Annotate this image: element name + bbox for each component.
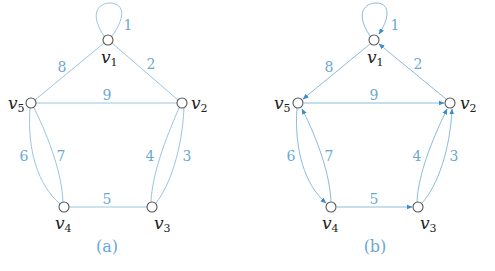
edge-b-3 bbox=[422, 109, 452, 203]
edge-label-b-3: 3 bbox=[450, 148, 459, 164]
edge-label-b-6: 6 bbox=[287, 148, 296, 164]
edge-label-b-5: 5 bbox=[370, 191, 379, 207]
edge-label-a-4: 4 bbox=[146, 148, 155, 164]
vertex-a-v3 bbox=[147, 202, 157, 212]
edge-label-b-1: 1 bbox=[391, 17, 400, 33]
edge-label-a-9: 9 bbox=[103, 87, 112, 103]
edge-a-1-loop bbox=[96, 3, 122, 36]
vertex-label-b-v3: v3 bbox=[420, 213, 437, 235]
graph-a: 1 2 3 4 5 6 7 8 9 v1 v2 v3 v4 v5 (a) bbox=[8, 3, 208, 256]
vertex-label-a-v5: v5 bbox=[8, 93, 25, 115]
vertex-label-b-v2: v2 bbox=[460, 93, 477, 115]
caption-b: (b) bbox=[364, 237, 387, 256]
edge-label-a-7: 7 bbox=[57, 148, 66, 164]
edge-label-a-8: 8 bbox=[58, 59, 67, 75]
edge-a-6 bbox=[30, 108, 60, 204]
edge-label-b-8: 8 bbox=[325, 59, 334, 75]
vertex-label-b-v1: v1 bbox=[367, 47, 384, 69]
edge-label-a-2: 2 bbox=[147, 56, 156, 72]
edge-label-b-9: 9 bbox=[370, 87, 379, 103]
vertex-b-v4 bbox=[326, 202, 336, 212]
vertex-a-v1 bbox=[103, 35, 113, 45]
vertex-label-b-v5: v5 bbox=[274, 93, 291, 115]
vertex-label-b-v4: v4 bbox=[322, 213, 339, 235]
edge-a-2 bbox=[112, 43, 178, 100]
edge-label-a-5: 5 bbox=[103, 191, 112, 207]
vertex-b-v3 bbox=[413, 202, 423, 212]
vertex-b-v5 bbox=[293, 98, 303, 108]
vertex-a-v2 bbox=[177, 98, 187, 108]
edge-b-2 bbox=[379, 44, 446, 99]
vertex-label-a-v2: v2 bbox=[191, 93, 208, 115]
edge-b-1-loop bbox=[362, 3, 387, 36]
edge-a-8 bbox=[35, 43, 104, 100]
vertex-a-v5 bbox=[26, 98, 36, 108]
diagram-canvas: 1 2 3 4 5 6 7 8 9 v1 v2 v3 v4 v5 (a) bbox=[0, 0, 495, 271]
caption-a: (a) bbox=[96, 237, 118, 256]
vertex-label-a-v4: v4 bbox=[55, 213, 72, 235]
vertex-a-v4 bbox=[59, 202, 69, 212]
vertex-label-a-v3: v3 bbox=[154, 213, 171, 235]
vertex-label-a-v1: v1 bbox=[101, 47, 118, 69]
edge-label-b-7: 7 bbox=[325, 148, 334, 164]
edge-label-a-6: 6 bbox=[20, 148, 29, 164]
edge-label-a-3: 3 bbox=[183, 148, 192, 164]
edge-b-8 bbox=[303, 44, 370, 99]
edge-label-b-4: 4 bbox=[413, 148, 422, 164]
edge-label-a-1: 1 bbox=[124, 17, 133, 33]
vertex-b-v2 bbox=[445, 98, 455, 108]
vertex-b-v1 bbox=[369, 35, 379, 45]
graph-b: 1 2 3 4 5 6 7 8 9 v1 v2 v3 v4 v5 (b) bbox=[274, 3, 477, 256]
edge-label-b-2: 2 bbox=[414, 56, 423, 72]
